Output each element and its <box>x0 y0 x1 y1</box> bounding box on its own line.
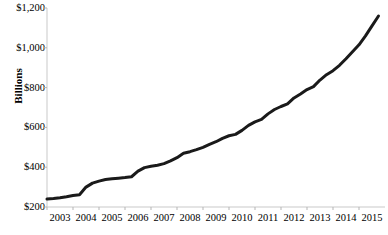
plot-area <box>0 0 388 235</box>
data-line <box>47 16 379 199</box>
chart-container: Billions $200$400$600$800$1,000$1,200 20… <box>0 0 388 235</box>
axis-tick-marks <box>44 8 359 210</box>
data-series-lines <box>47 16 379 199</box>
axis-lines <box>47 8 385 207</box>
